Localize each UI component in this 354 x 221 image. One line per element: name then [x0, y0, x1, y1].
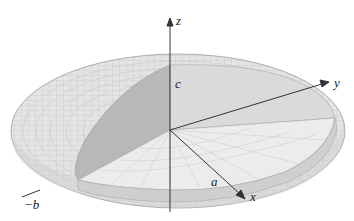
y-axis-arrow-icon: [320, 80, 329, 87]
z-axis-label: z: [176, 14, 181, 27]
x-axis-label: x: [250, 190, 256, 203]
y-axis-label: y: [334, 76, 340, 89]
a-intercept-label: a: [211, 175, 218, 188]
neg-b-tick: [22, 190, 40, 197]
neg-b-intercept-label: −b: [24, 198, 39, 211]
ellipsoid-diagram: z y x c a −b: [0, 0, 354, 221]
ellipsoid-figure: [0, 0, 354, 221]
c-intercept-label: c: [175, 77, 181, 90]
z-axis-arrow-icon: [167, 18, 173, 26]
